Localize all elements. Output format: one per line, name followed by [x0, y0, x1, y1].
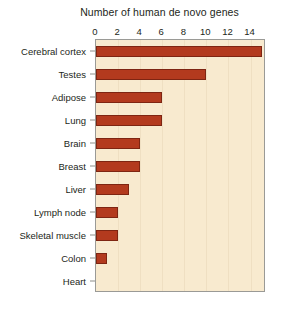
x-tick-label: 0 [92, 26, 97, 37]
y-axis-tick-mark [90, 50, 95, 51]
bar-row [96, 184, 264, 196]
y-axis-label: Skeletal muscle [19, 229, 86, 240]
y-axis-tick-mark [90, 280, 95, 281]
bar-row [96, 46, 264, 58]
bar [96, 138, 140, 150]
y-axis-tick-mark [90, 142, 95, 143]
bar-row [96, 69, 264, 81]
x-tick-label: 10 [200, 26, 211, 37]
y-axis-tick-mark [90, 96, 95, 97]
x-tick-label: 14 [244, 26, 255, 37]
bar-row [96, 253, 264, 265]
bar [96, 115, 162, 127]
x-tick-label: 8 [181, 26, 186, 37]
bar-row [96, 230, 264, 242]
bars-layer [96, 40, 264, 291]
y-axis-label: Testes [59, 68, 86, 79]
bar-row [96, 115, 264, 127]
x-tick-label: 2 [114, 26, 119, 37]
y-axis-label: Heart [63, 275, 86, 286]
y-axis-tick-mark [90, 257, 95, 258]
plot-area [95, 39, 265, 292]
y-axis-label: Adipose [52, 91, 86, 102]
y-axis-tick-mark [90, 234, 95, 235]
y-axis-tick-mark [90, 165, 95, 166]
bar-row [96, 92, 264, 104]
bar [96, 69, 206, 81]
y-axis-label: Liver [65, 183, 86, 194]
y-axis-category-labels: Cerebral cortexTestesAdiposeLungBrainBre… [0, 39, 95, 292]
y-axis-label: Lymph node [34, 206, 86, 217]
x-tick-label: 12 [222, 26, 233, 37]
bar-row [96, 207, 264, 219]
bar [96, 253, 107, 265]
x-tick-label: 4 [136, 26, 141, 37]
x-axis-tick-labels: 02468101214 [95, 26, 265, 39]
y-axis-tick-mark [90, 73, 95, 74]
bar-row [96, 276, 264, 288]
bar [96, 184, 129, 196]
bar-row [96, 138, 264, 150]
bar-row [96, 161, 264, 173]
x-tick-label: 6 [159, 26, 164, 37]
y-axis-label: Lung [65, 114, 86, 125]
bar [96, 161, 140, 173]
y-axis-tick-mark [90, 188, 95, 189]
bar-chart-figure: Number of human de novo genes 0246810121… [0, 0, 285, 315]
y-axis-label: Breast [59, 160, 86, 171]
bar [96, 207, 118, 219]
y-axis-label: Colon [61, 252, 86, 263]
y-axis-tick-mark [90, 119, 95, 120]
bar [96, 230, 118, 242]
y-axis-label: Cerebral cortex [21, 45, 86, 56]
y-axis-tick-mark [90, 211, 95, 212]
bar [96, 92, 162, 104]
chart-title: Number of human de novo genes [0, 6, 285, 18]
y-axis-label: Brain [64, 137, 86, 148]
bar [96, 46, 262, 58]
